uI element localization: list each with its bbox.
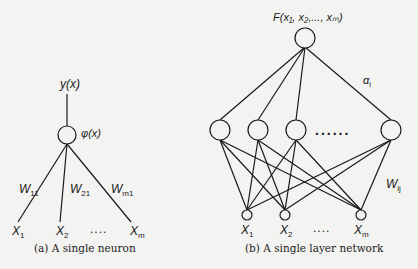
alpha-label: αi bbox=[363, 75, 371, 89]
edge-w21 bbox=[60, 144, 67, 222]
input-ellipsis-a: .... bbox=[90, 222, 107, 236]
weight-label-w11: W11 bbox=[19, 183, 39, 198]
input-label-x2-a: X2 bbox=[56, 225, 68, 240]
input-ellipsis-b: .... bbox=[313, 221, 330, 235]
weight-label-wm1: Wm1 bbox=[111, 183, 133, 198]
hidden-node bbox=[210, 120, 230, 140]
neuron-node bbox=[58, 126, 76, 144]
input-label-x2-b: X2 bbox=[280, 224, 292, 239]
input-label-xm-a: Xm bbox=[130, 225, 145, 240]
weight-label-w21: W21 bbox=[70, 183, 90, 198]
wij-edges bbox=[220, 140, 391, 210]
input-label-x1-a: X1 bbox=[12, 225, 24, 240]
caption-b: (b) A single layer network bbox=[245, 242, 383, 254]
output-label-b: F(x₁, x₂,..., xₘ) bbox=[273, 12, 343, 23]
hidden-ellipsis: ...... bbox=[315, 122, 350, 138]
input-node bbox=[280, 210, 290, 220]
weight-label-wij: Wij bbox=[386, 178, 401, 193]
hidden-node bbox=[286, 120, 306, 140]
input-node bbox=[356, 210, 366, 220]
activation-label: φ(x) bbox=[81, 128, 101, 139]
input-label-xm-b: Xm bbox=[354, 224, 369, 239]
hidden-node bbox=[248, 120, 268, 140]
input-label-x1-b: X1 bbox=[241, 224, 253, 239]
caption-a: (a) A single neuron bbox=[34, 242, 136, 254]
input-node bbox=[242, 210, 252, 220]
output-node bbox=[295, 28, 315, 48]
output-label-a: y(x) bbox=[60, 78, 80, 90]
hidden-node bbox=[381, 120, 401, 140]
